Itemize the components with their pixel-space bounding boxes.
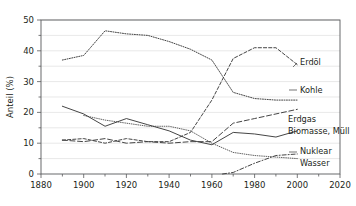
y-tick-label: 10	[23, 138, 34, 148]
y-axis-title: Anteil (%)	[5, 76, 15, 118]
series-label-kohle: Kohle	[300, 85, 322, 95]
series-label-biomasse-m-ll: Biomasse, Müll	[288, 126, 349, 136]
x-tick-label: 1960	[201, 180, 223, 190]
x-tick-label: 1900	[73, 180, 95, 190]
x-tick-labels: 1880 1900 1920 1940 1960 1980 2000 2020	[30, 180, 351, 190]
label-leaders	[289, 63, 297, 152]
x-tick-label: 2020	[329, 180, 351, 190]
x-tick-label: 1920	[116, 180, 138, 190]
y-tick-labels: 50 40 30 20 10 0	[23, 15, 34, 179]
series-line-nuklear	[223, 154, 298, 174]
x-tick-label: 1980	[244, 180, 266, 190]
series-line-erdgas	[62, 109, 297, 143]
x-tick-label: 1940	[158, 180, 180, 190]
chart-container: 50 40 30 20 10 0 Anteil (%)	[0, 0, 356, 206]
y-tick-label: 20	[23, 107, 34, 117]
y-tick-label: 0	[29, 169, 34, 179]
x-axis-ticks	[41, 174, 340, 178]
y-tick-label: 30	[23, 77, 34, 87]
x-tick-label: 2000	[286, 180, 308, 190]
y-tick-label: 50	[23, 15, 34, 25]
x-tick-label: 1880	[30, 180, 52, 190]
series-label-nuklear: Nuklear	[300, 146, 332, 156]
series-label-erdgas: Erdgas	[288, 114, 316, 124]
y-tick-label: 40	[23, 46, 34, 56]
series-label-erd-l: Erdöl	[300, 57, 321, 67]
y-axis-ticks	[37, 20, 41, 174]
series-line-kohle	[62, 31, 297, 100]
series-line-biomasse-m-ll	[62, 106, 297, 145]
series-label-wasser: Wasser	[300, 158, 330, 168]
series-layer	[62, 31, 297, 174]
gridlines	[41, 20, 340, 159]
line-chart: 50 40 30 20 10 0 Anteil (%)	[0, 0, 356, 206]
